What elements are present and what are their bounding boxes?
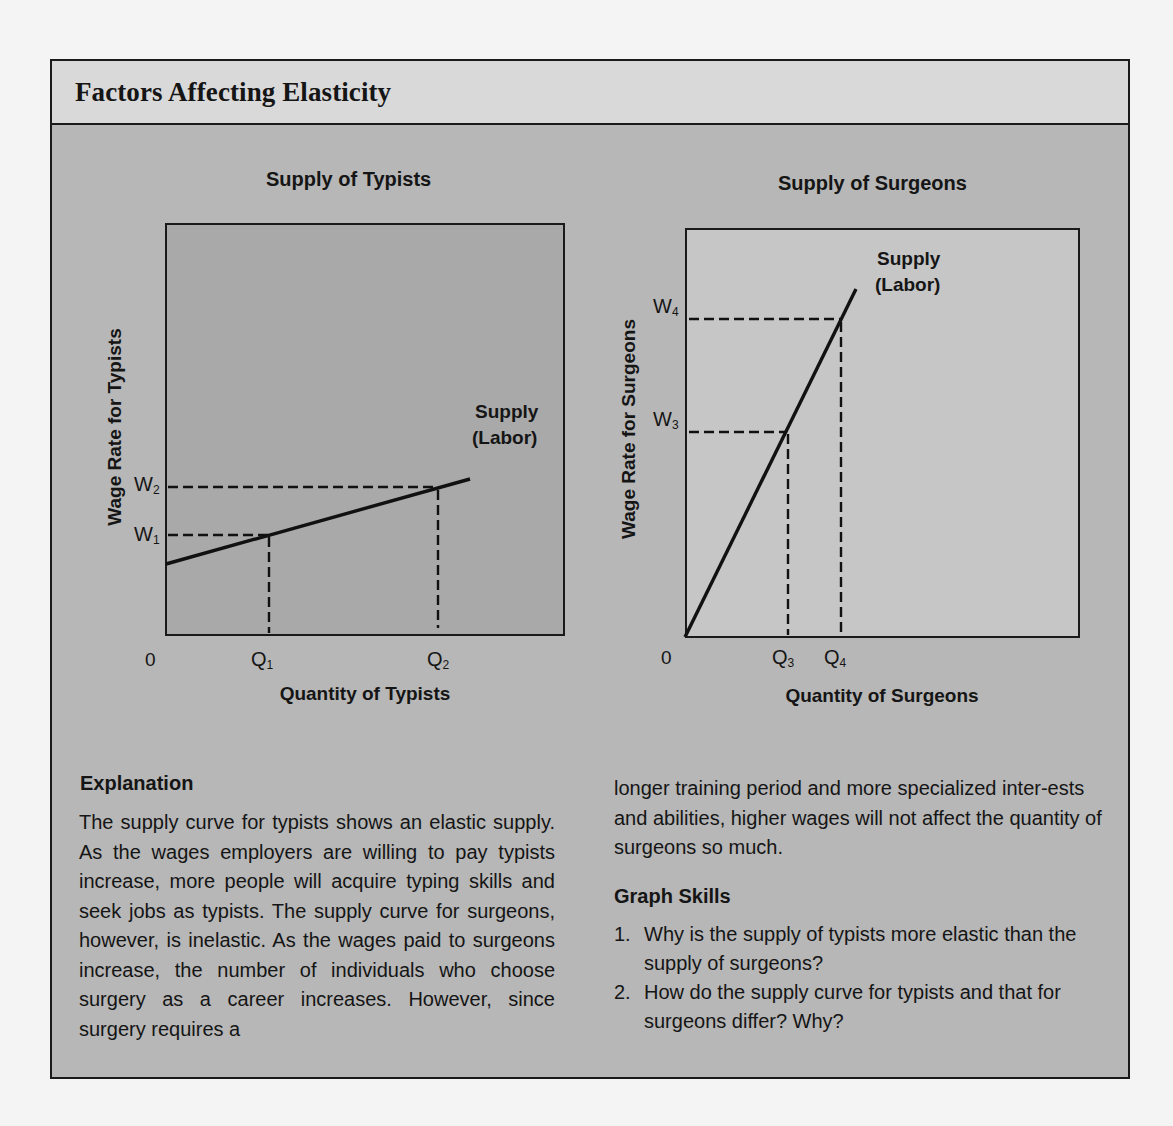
surgeons-curve-label-1: Supply [877,248,941,269]
graph-skill-number: 2. [614,978,631,1007]
typists-x-axis-title: Quantity of Typists [280,683,451,704]
surgeons-y-axis-title: Wage Rate for Surgeons [618,319,639,539]
typists-w1-label: W1 [134,523,160,547]
graph-skills-list: 1. Why is the supply of typists more ela… [614,920,1108,1036]
graph-skill-text: How do the supply curve for typists and … [644,981,1061,1032]
typists-w2-label: W2 [134,473,160,497]
explanation-heading: Explanation [80,772,193,795]
surgeons-origin-label: 0 [661,647,672,668]
surgeons-x-axis-title: Quantity of Surgeons [785,685,978,706]
surgeons-q3-label: Q3 [772,646,795,670]
graph-skill-text: Why is the supply of typists more elasti… [644,923,1076,974]
charts-svg: 0 Q1 Q2 W2 W1 Supply (Labor) Quantity of… [0,0,1173,760]
surgeons-w3-label: W3 [653,408,679,432]
typists-q2-label: Q2 [427,648,450,672]
graph-skill-number: 1. [614,920,631,949]
graph-skill-item: 2. How do the supply curve for typists a… [614,978,1108,1036]
explanation-text-right: longer training period and more speciali… [614,774,1108,863]
explanation-text-left: The supply curve for typists shows an el… [79,808,555,1044]
typists-curve-label-1: Supply [475,401,539,422]
typists-y-axis-title: Wage Rate for Typists [104,328,125,525]
typists-origin-label: 0 [145,649,156,670]
surgeons-chart: 0 Q3 Q4 W4 W3 Supply (Labor) Quantity of… [618,229,1079,706]
surgeons-w4-label: W4 [653,295,679,319]
graph-skill-item: 1. Why is the supply of typists more ela… [614,920,1108,978]
surgeons-q4-label: Q4 [824,646,847,670]
graph-skills-heading: Graph Skills [614,885,731,908]
surgeons-curve-label-2: (Labor) [875,274,940,295]
typists-curve-label-2: (Labor) [472,427,537,448]
typists-chart: 0 Q1 Q2 W2 W1 Supply (Labor) Quantity of… [104,224,564,704]
typists-q1-label: Q1 [251,648,274,672]
